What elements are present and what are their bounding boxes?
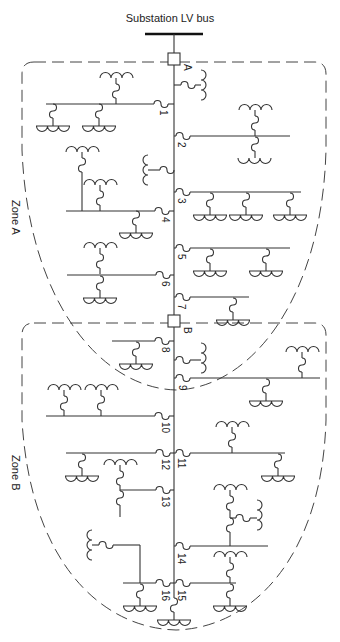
zone-b-label: Zone B [10,455,22,490]
branch-5 [174,245,290,277]
node-15-label: 15 [176,590,187,602]
zone-a-label: Zone A [10,200,22,236]
node-16-label: 16 [160,590,171,602]
branch-6 [67,243,174,304]
branch-16 [123,580,191,626]
node-4-label: 4 [160,217,171,223]
load-left-mid-a [143,155,174,185]
breaker-b[interactable] [168,315,180,327]
node-1-label: 1 [158,110,169,116]
breaker-b-label: B [182,327,193,334]
node-13-label: 13 [160,496,171,508]
branch-4 [66,147,174,239]
branch-1 [36,73,174,132]
node-11-label: 11 [176,458,187,469]
branch-11 [174,422,295,482]
breaker-a[interactable] [168,53,180,65]
node-3-label: 3 [176,198,187,204]
node-12-label: 12 [160,459,171,471]
node-2-label: 2 [176,142,187,148]
node-7-label: 7 [176,304,187,310]
branch-9 [174,347,320,407]
load-near-a [174,70,206,100]
branch-3 [174,189,307,221]
branch-16-riser [87,530,140,583]
breaker-a-label: A [182,64,193,71]
load-right-top-b [174,343,206,373]
branch-8 [112,338,174,370]
node-14-label: 14 [176,553,187,565]
distribution-network-diagram: A B Zone A Zone B 1 2 [0,0,340,642]
node-9-label: 9 [177,385,188,391]
node-6-label: 6 [160,281,171,287]
node-8-label: 8 [160,347,171,353]
branch-14 [174,485,268,550]
node-5-label: 5 [176,254,187,260]
node-10-label: 10 [160,422,171,434]
branch-10 [46,385,174,420]
branch-2 [174,105,290,164]
